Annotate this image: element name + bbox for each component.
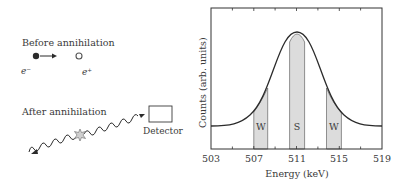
electron-icon bbox=[33, 53, 39, 59]
electron-label: e⁻ bbox=[21, 66, 31, 76]
photon-wave-right bbox=[84, 115, 138, 136]
band-label-w-left: W bbox=[256, 121, 266, 132]
after-annihilation-label: After annihilation bbox=[22, 106, 107, 117]
band-w-left bbox=[254, 88, 268, 149]
arrow-icon bbox=[52, 54, 57, 59]
x-tick-label: 507 bbox=[245, 153, 263, 164]
band-label-w-right: W bbox=[329, 121, 339, 132]
detector-label: Detector bbox=[143, 126, 183, 136]
x-tick-label: 511 bbox=[288, 153, 306, 164]
annihilation-burst-icon bbox=[75, 129, 86, 141]
positron-icon bbox=[76, 53, 82, 59]
x-tick-label: 519 bbox=[373, 153, 391, 164]
y-axis-label: Counts (arb. units) bbox=[197, 37, 208, 128]
x-axis-label: Energy (keV) bbox=[265, 168, 328, 179]
x-tick-label: 515 bbox=[330, 153, 348, 164]
detector-box bbox=[149, 106, 172, 122]
band-label-s: S bbox=[294, 121, 301, 132]
photon-wave-left bbox=[29, 135, 76, 152]
x-tick-label: 503 bbox=[202, 153, 220, 164]
band-w-right bbox=[327, 88, 342, 149]
positron-label: e⁺ bbox=[82, 67, 92, 77]
